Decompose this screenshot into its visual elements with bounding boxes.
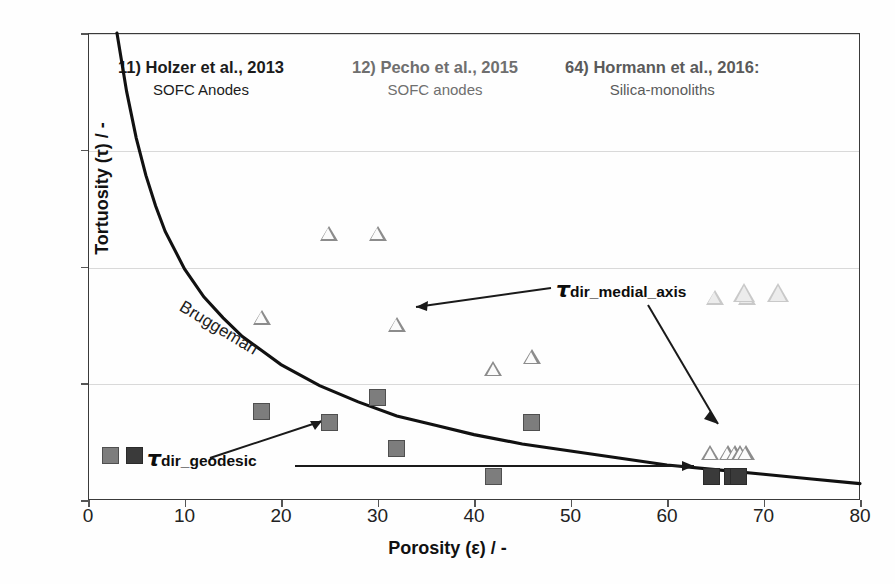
marker-square-tau_dir_geodesic-2 [369,389,386,406]
x-axis-label: Porosity (ε) / - [0,538,895,559]
marker-triangle-tau_dir_medial_axis-6 [701,445,719,460]
marker-square-tau_dir_geodesic_dark-2 [730,468,747,485]
legend-swatch-triangle-1 [767,283,789,302]
xtick-mark-70 [764,500,766,507]
marker-triangle-tau_dir_medial_axis_silica-0 [706,290,724,305]
xtick-mark-10 [185,500,187,507]
marker-triangle-inner [525,352,537,363]
marker-triangle-tau_dir_medial_axis-2 [369,226,387,241]
legend-swatch-square-dark [126,447,143,464]
legend-title-holzer: 11) Holzer et al., 2013 [118,56,284,79]
marker-square-tau_dir_geodesic-5 [523,414,540,431]
marker-triangle-tau_dir_medial_axis-10 [737,445,755,460]
marker-triangle-tau_dir_medial_axis-5 [523,349,541,364]
xtick-mark-30 [378,500,380,507]
ytick-mark-2-5 [81,150,88,152]
marker-triangle-inner [371,228,383,239]
gridline-3 [89,34,859,35]
legend-swatch-triangle-inner [770,286,786,301]
tau-subscript-medial: dir_medial_axis [570,283,686,300]
xtick-mark-60 [667,500,669,507]
xtick-mark-80 [860,500,862,507]
legend-entry-pecho: 12) Pecho et al., 2015 SOFC anodes [352,56,518,101]
annotation-geodesic: τdir_geodesic [147,446,257,471]
marker-square-tau_dir_geodesic_dark-0 [703,468,720,485]
xtick-label-60: 60 [645,505,689,527]
marker-triangle-inner [322,228,334,239]
gridline-2 [89,268,859,269]
tau-symbol-medial: τ [556,277,570,302]
marker-triangle-tau_dir_medial_axis-3 [388,317,406,332]
legend-sub-pecho: SOFC anodes [352,79,518,100]
legend-title-hormann: 64) Hormann et al., 2016: [565,56,759,79]
marker-triangle-inner [255,312,267,323]
marker-square-tau_dir_geodesic-1 [321,414,338,431]
ytick-mark-2 [81,267,88,269]
xtick-label-30: 30 [356,505,400,527]
marker-square-tau_dir_geodesic-3 [388,440,405,457]
legend-entry-hormann: 64) Hormann et al., 2016: Silica-monolit… [565,56,759,101]
legend-sub-holzer: SOFC Anodes [118,79,284,100]
xtick-label-10: 10 [163,505,207,527]
legend-swatch-triangle-0 [733,283,755,302]
marker-square-tau_dir_geodesic-0 [253,403,270,420]
marker-triangle-inner [704,448,716,459]
marker-triangle-inner [487,364,499,375]
gridline-1-5 [89,384,859,385]
annotation-medial-axis: τdir_medial_axis [556,277,686,302]
xtick-mark-50 [571,500,573,507]
xtick-mark-40 [474,500,476,507]
marker-triangle-inner [390,319,402,330]
legend-swatch-square-mid [102,447,119,464]
legend-title-pecho: 12) Pecho et al., 2015 [352,56,518,79]
xtick-label-0: 0 [66,505,110,527]
ytick-mark-1-5 [81,383,88,385]
marker-triangle-inner [739,448,751,459]
ytick-mark-1 [81,500,88,502]
ytick-mark-3 [81,33,88,35]
plot-area [88,33,860,500]
marker-triangle-inner [708,292,720,303]
gridline-2-5 [89,151,859,152]
xtick-label-70: 70 [742,505,786,527]
legend-sub-hormann: Silica-monoliths [565,79,759,100]
marker-triangle-tau_dir_medial_axis-0 [253,310,271,325]
xtick-label-40: 40 [452,505,496,527]
legend-entry-holzer: 11) Holzer et al., 2013 SOFC Anodes [118,56,284,101]
marker-triangle-tau_dir_medial_axis-4 [484,361,502,376]
chart-figure: 3 2.5 2 1.5 1 Tortuosity (τ) / - 0 10 20… [0,0,895,584]
tau-subscript-geodesic: dir_geodesic [161,452,257,469]
xtick-label-50: 50 [549,505,593,527]
xtick-mark-0 [88,500,90,507]
tau-symbol-geodesic: τ [147,446,161,471]
marker-triangle-tau_dir_medial_axis-1 [320,226,338,241]
legend-swatch-triangle-inner [736,286,752,301]
xtick-mark-20 [281,500,283,507]
y-axis-label: Tortuosity (τ) / - [92,79,113,299]
marker-square-tau_dir_geodesic-4 [485,468,502,485]
xtick-label-80: 80 [838,505,882,527]
xtick-label-20: 20 [259,505,303,527]
